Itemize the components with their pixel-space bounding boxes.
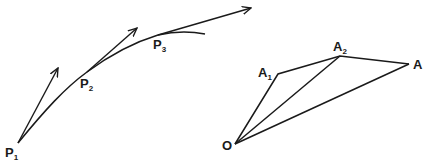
tangent-vector-p3 [158, 8, 251, 35]
vector-o-a2 [235, 56, 340, 144]
label-a2: A2 [333, 40, 347, 56]
label-p1: P1 [5, 146, 18, 162]
curve [18, 32, 205, 143]
tangent-vector-p1 [18, 68, 58, 143]
diagram-canvas [0, 0, 428, 163]
label-p3: P3 [153, 38, 166, 54]
label-a1: A1 [258, 66, 272, 82]
label-p2: P2 [80, 77, 93, 93]
label-a: A [413, 58, 422, 71]
tangent-vector-p2 [87, 28, 137, 72]
label-o: O [222, 139, 232, 152]
